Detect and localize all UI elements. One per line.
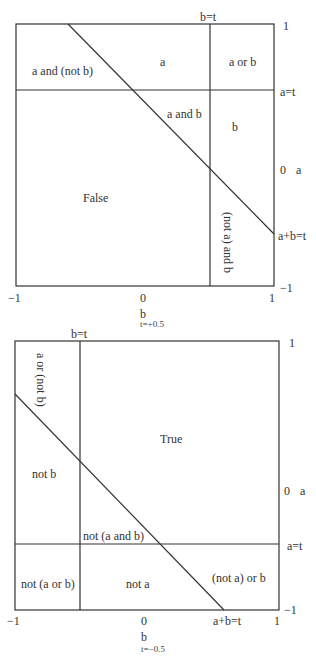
- caption: t=+0.5: [140, 319, 164, 329]
- y-axis-label: a: [300, 484, 306, 498]
- region-label: True: [160, 432, 182, 446]
- label-b-eq-t: b=t: [71, 327, 88, 341]
- label-a-plus-b-eq-t: a+b=t: [213, 614, 242, 628]
- x-axis-label: b: [141, 630, 147, 644]
- label-a-eq-t: a=t: [287, 539, 303, 553]
- region-label: a and b: [167, 107, 202, 121]
- x-tick-0: 0: [141, 614, 147, 628]
- diagram-t-minus: b=t a=t a+b=t 1 0 a −1 −1 0 1 b t=−0.5 a…: [7, 327, 306, 654]
- x-tick-minus1: −1: [8, 291, 21, 305]
- caption: t=−0.5: [141, 644, 165, 654]
- x-tick-1: 1: [269, 291, 275, 305]
- region-label: False: [83, 191, 108, 205]
- region-label: not b: [32, 467, 56, 481]
- x-tick-1: 1: [274, 614, 280, 628]
- label-a-eq-t: a=t: [280, 85, 296, 99]
- region-label: not (a and b): [83, 529, 144, 543]
- y-tick-1: 1: [283, 19, 289, 33]
- y-tick-minus1: −1: [284, 603, 297, 617]
- x-tick-minus1: −1: [7, 614, 20, 628]
- label-a-plus-b-eq-t: a+b=t: [278, 229, 307, 243]
- y-tick-minus1: −1: [280, 281, 293, 295]
- region-label: a or b: [229, 55, 256, 69]
- y-tick-0: 0: [280, 163, 286, 177]
- region-label: a or (not b): [34, 353, 48, 407]
- region-label: (not a) and b: [221, 212, 235, 273]
- region-label: b: [232, 120, 238, 134]
- region-label: not (a or b): [21, 577, 75, 591]
- diagram-t-plus: b=t a=t a+b=t 1 0 a −1 −1 0 1 b t=+0.5 a…: [8, 10, 307, 329]
- region-label: (not a) or b: [212, 571, 266, 585]
- y-axis-label: a: [296, 163, 302, 177]
- y-tick-0: 0: [284, 484, 290, 498]
- region-label: a and (not b): [32, 64, 93, 78]
- label-b-eq-t: b=t: [200, 10, 217, 24]
- region-label: not a: [126, 577, 150, 591]
- region-label: a: [160, 55, 166, 69]
- x-tick-0: 0: [140, 291, 146, 305]
- y-tick-1: 1: [289, 336, 295, 350]
